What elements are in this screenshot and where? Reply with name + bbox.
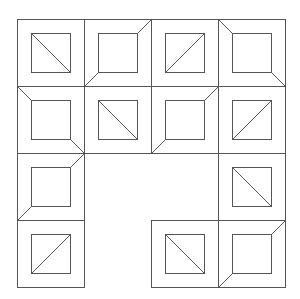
bevel-line-bottom-left xyxy=(219,274,233,288)
tile xyxy=(152,87,219,154)
diagonal-line xyxy=(166,34,205,73)
tile-pattern-diagram xyxy=(0,0,300,299)
bevel-line-bottom-left xyxy=(85,73,99,87)
tile xyxy=(18,20,85,87)
bevel-line-bottom-left xyxy=(152,140,166,154)
tile xyxy=(85,20,152,87)
diagonal-line xyxy=(233,101,272,140)
tile xyxy=(152,20,219,87)
bevel-line-top-right xyxy=(71,154,85,168)
bevel-line-top-left xyxy=(219,20,233,34)
tile xyxy=(219,87,286,154)
diagonal-line xyxy=(166,235,205,274)
tile xyxy=(18,154,85,221)
tile xyxy=(219,20,286,87)
tile-inner-square xyxy=(233,235,272,274)
tile xyxy=(152,221,219,288)
tile xyxy=(219,154,286,221)
bevel-line-bottom-right xyxy=(71,140,85,154)
diagonal-line xyxy=(32,235,71,274)
tile xyxy=(18,87,85,154)
tile-inner-square xyxy=(32,101,71,140)
tile xyxy=(85,87,152,154)
bevel-line-top-right xyxy=(205,87,219,101)
bevel-line-bottom-right xyxy=(272,73,286,87)
tile-inner-square xyxy=(166,101,205,140)
tile-inner-square xyxy=(99,34,138,73)
diagonal-line xyxy=(233,168,272,207)
tile xyxy=(18,221,85,288)
diagonal-line xyxy=(99,101,138,140)
bevel-line-bottom-left xyxy=(18,207,32,221)
bevel-line-top-right xyxy=(138,20,152,34)
tile-inner-square xyxy=(32,168,71,207)
bevel-line-top-right xyxy=(272,221,286,235)
tile-grid xyxy=(0,0,300,299)
tile-inner-square xyxy=(233,34,272,73)
bevel-line-top-left xyxy=(18,87,32,101)
diagonal-line xyxy=(32,34,71,73)
tile xyxy=(219,221,286,288)
